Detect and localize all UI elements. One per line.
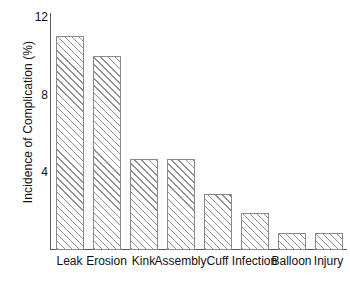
bar (167, 159, 195, 250)
plot-area (51, 13, 347, 250)
bar (278, 233, 306, 250)
x-tick-label: Injury (284, 254, 350, 269)
y-tick-label: 12 (26, 11, 48, 23)
bar (56, 36, 84, 250)
bar (315, 233, 343, 250)
bar (130, 159, 158, 250)
y-axis-tick-labels: 4812 (26, 0, 48, 287)
y-tick-label: 4 (26, 166, 48, 178)
y-tick-label: 8 (26, 89, 48, 101)
bar (204, 194, 232, 250)
bar (241, 213, 269, 250)
x-axis-tick-labels: LeakErosionKinkAssemblyCuffInfectionBall… (51, 254, 347, 276)
bar-chart: Incidence of Complication (%) 4812 LeakE… (0, 0, 350, 287)
bar (93, 56, 121, 250)
